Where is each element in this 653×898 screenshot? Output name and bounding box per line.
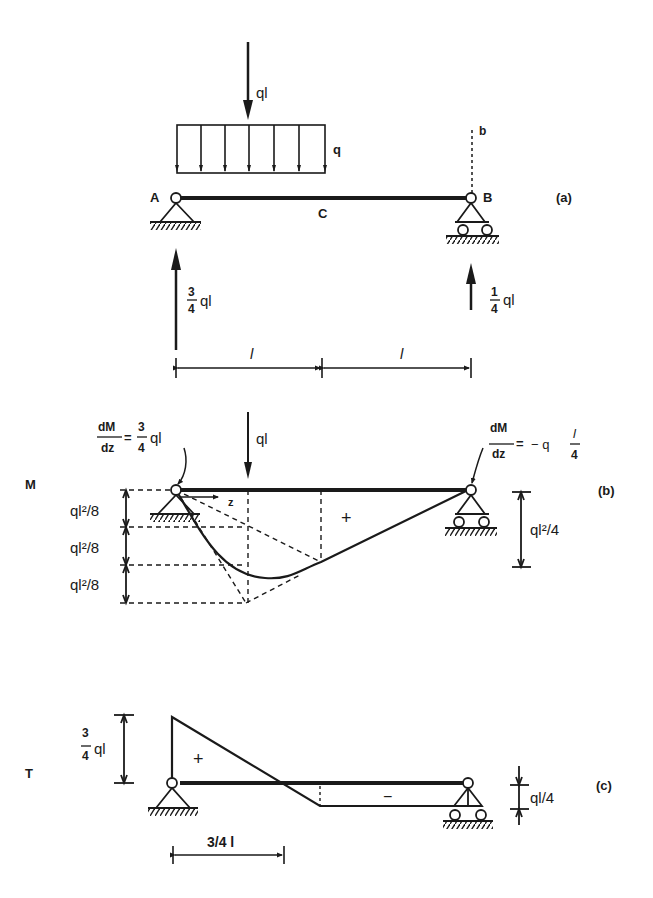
support-a-label: A: [150, 190, 160, 205]
span-right-label: l: [400, 345, 404, 362]
moment-diagram-label: M: [25, 477, 36, 492]
beam-diagram: ql q b C: [0, 0, 653, 898]
part-c-tag: (c): [596, 778, 612, 793]
slope-b-den: 4: [571, 448, 578, 462]
slope-a-pointer: [178, 448, 186, 484]
reaction-a-num: 3: [188, 285, 195, 299]
shear-positive-sign: +: [193, 749, 204, 769]
span-left-label: l: [250, 345, 254, 362]
shear-right-label: ql/4: [530, 789, 554, 806]
point-load-arrow-icon: [243, 42, 253, 120]
shear-left-den: 4: [82, 749, 89, 763]
construction-lines: [120, 490, 321, 603]
distributed-load-label: q: [333, 142, 341, 157]
slope-a-eq: =: [124, 430, 132, 445]
point-load-label: ql: [256, 84, 268, 101]
shear-diagram-label: T: [25, 766, 33, 781]
part-b-moment-diagram: M dM dz = 3 4 ql ql dM dz = − q l 4: [25, 412, 615, 603]
reaction-a-suffix: ql: [200, 292, 212, 309]
moment-max-label: ql²/4: [530, 521, 559, 538]
midpoint-label: C: [318, 206, 328, 221]
moment-step-dimension: [123, 490, 129, 603]
reaction-b-num: 1: [491, 285, 498, 299]
slope-a-lhs-den: dz: [101, 441, 114, 455]
point-load-arrow-icon: [244, 412, 252, 479]
section-label: b: [479, 124, 486, 138]
slope-b-num: l: [573, 426, 577, 441]
part-a-tag: (a): [556, 190, 572, 205]
reaction-b-arrow-icon: [466, 263, 476, 310]
zero-crossing-label: 3/4 l: [207, 834, 234, 850]
shear-left-dimension: [114, 715, 134, 783]
slope-b-lhs-den: dz: [492, 447, 505, 461]
moment-step-1: ql²/8: [70, 502, 99, 519]
reaction-a-den: 4: [188, 302, 195, 316]
moment-max-dimension: [512, 492, 531, 567]
reaction-a-arrow-icon: [171, 248, 181, 350]
support-b-label: B: [483, 190, 492, 205]
slope-a-lhs-num: dM: [98, 420, 115, 434]
part-a-loading: ql q b C: [150, 42, 572, 378]
part-b-tag: (b): [598, 483, 615, 498]
moment-step-2: ql²/8: [70, 539, 99, 556]
slope-b-lhs-num: dM: [490, 421, 507, 435]
slope-a-num: 3: [138, 420, 145, 434]
shear-left-num: 3: [82, 726, 89, 740]
span-dimension: [176, 358, 471, 378]
moment-step-3: ql²/8: [70, 576, 99, 593]
distributed-load-icon: [175, 125, 327, 173]
slope-a-den: 4: [138, 441, 145, 455]
slope-a-suffix: ql: [150, 429, 162, 446]
shear-right-dimension: [510, 766, 529, 825]
point-load-label-b: ql: [256, 430, 268, 447]
shear-negative-sign: −: [383, 788, 392, 805]
slope-b-prefix: − q: [531, 437, 549, 452]
part-c-shear-diagram: T 3 4 ql + −: [25, 715, 612, 864]
roller-support-icon: [445, 485, 497, 536]
roller-support-icon: [443, 778, 493, 829]
moment-positive-sign: +: [341, 508, 352, 528]
z-axis-label: z: [228, 496, 234, 508]
reaction-b-den: 4: [491, 302, 498, 316]
slope-b-pointer: [472, 448, 483, 483]
slope-b-eq: =: [516, 436, 524, 451]
reaction-b-suffix: ql: [503, 291, 515, 308]
shear-left-suffix: ql: [94, 740, 106, 757]
